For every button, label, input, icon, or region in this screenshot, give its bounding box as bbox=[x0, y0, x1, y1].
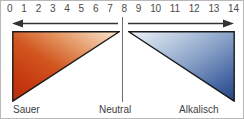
ph-number-neutral: 7 bbox=[107, 4, 112, 14]
caption-row: Sauer Neutral Alkalisch bbox=[1, 104, 244, 119]
arrow-right-icon bbox=[128, 19, 234, 28]
ph-number: 14 bbox=[228, 4, 239, 14]
ph-number: 10 bbox=[150, 4, 161, 14]
ph-number: 3 bbox=[50, 4, 55, 14]
ph-number: 11 bbox=[170, 4, 180, 14]
ph-number: 2 bbox=[36, 4, 41, 14]
alkaline-gradient-triangle bbox=[128, 31, 235, 102]
ph-number: 5 bbox=[79, 4, 84, 14]
ph-number: 13 bbox=[208, 4, 219, 14]
ph-scale-diagram: 0 1 2 3 4 5 6 7 8 9 10 11 12 13 14 bbox=[0, 0, 244, 119]
caption-alkaline: Alkalisch bbox=[179, 104, 218, 116]
ph-number: 1 bbox=[21, 4, 26, 14]
acidic-gradient-triangle bbox=[12, 31, 120, 102]
neutral-divider-line bbox=[122, 17, 123, 102]
ph-number: 4 bbox=[64, 4, 69, 14]
ph-number: 0 bbox=[7, 4, 12, 14]
arrow-left-icon bbox=[12, 19, 118, 28]
ph-number: 9 bbox=[136, 4, 141, 14]
caption-neutral: Neutral bbox=[99, 104, 131, 116]
ph-number: 8 bbox=[122, 4, 127, 14]
ph-number: 6 bbox=[93, 4, 98, 14]
ph-scale-number-axis: 0 1 2 3 4 5 6 7 8 9 10 11 12 13 14 bbox=[7, 2, 239, 16]
caption-acidic: Sauer bbox=[13, 104, 40, 116]
ph-number: 12 bbox=[189, 4, 200, 14]
